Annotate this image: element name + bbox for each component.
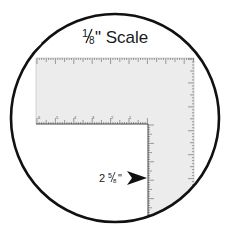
arrow-icon [127, 171, 147, 185]
title-suffix: " Scale [95, 28, 148, 47]
measurement-label: 2 5 8 " [99, 172, 122, 184]
scale-diagram: 6 5 4 3 2 1 1 8 " Scale 2 5 8 " [0, 0, 229, 234]
measurement-whole: 2 [99, 172, 105, 184]
title-fraction-numerator: 1 [82, 27, 88, 39]
measurement-denominator: 8 [113, 178, 117, 184]
measurement-suffix: " [118, 172, 122, 184]
measurement-numerator: 5 [108, 172, 112, 179]
title: 1 8 " Scale [82, 27, 148, 47]
